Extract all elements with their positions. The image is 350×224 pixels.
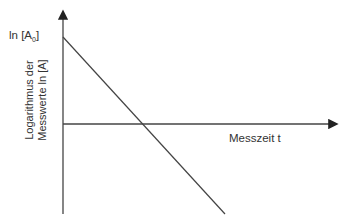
diagram-canvas [0,0,350,224]
y-axis-label: Logarithmus der Messwerte ln [A] [23,35,49,165]
regression-line [63,37,225,214]
x-axis-label: Messzeit t [229,132,281,144]
